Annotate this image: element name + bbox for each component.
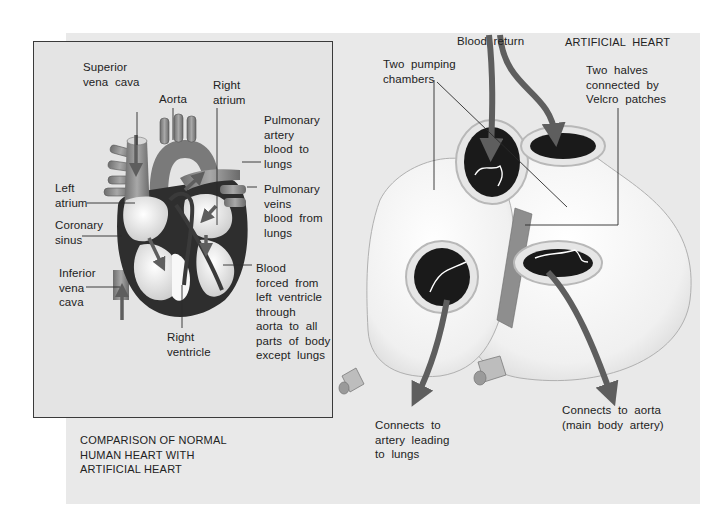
label-inferior-vena-cava: Inferior vena cava <box>59 266 96 310</box>
label-pulmonary-veins: Pulmonary veins blood from lungs <box>264 182 323 240</box>
label-connects-artery-lungs: Connects to artery leading to lungs <box>375 418 449 462</box>
label-aorta: Aorta <box>159 92 187 107</box>
label-right-ventricle: Right ventricle <box>167 330 211 359</box>
diagram-canvas: Superior vena cava Aorta Right atrium Pu… <box>0 0 724 510</box>
label-two-halves-velcro: Two halves connected by Velcro patches <box>586 63 666 107</box>
label-blood-return: Blood return <box>457 34 524 49</box>
artificial-heart-title: ARTIFICIAL HEART <box>565 35 670 50</box>
label-coronary-sinus: Coronary sinus <box>55 218 103 247</box>
label-right-atrium: Right atrium <box>213 78 246 107</box>
label-connects-aorta: Connects to aorta (main body artery) <box>562 403 664 432</box>
normal-heart-illustration <box>104 114 248 320</box>
label-blood-forced: Blood forced from left ventricle through… <box>256 261 330 363</box>
label-left-atrium: Left atrium <box>55 181 88 210</box>
comparison-caption: COMPARISON OF NORMAL HUMAN HEART WITH AR… <box>80 433 227 477</box>
label-two-pumping-chambers: Two pumping chambers <box>383 57 456 86</box>
label-pulmonary-artery: Pulmonary artery blood to lungs <box>264 113 320 171</box>
label-superior-vena-cava: Superior vena cava <box>83 60 140 89</box>
